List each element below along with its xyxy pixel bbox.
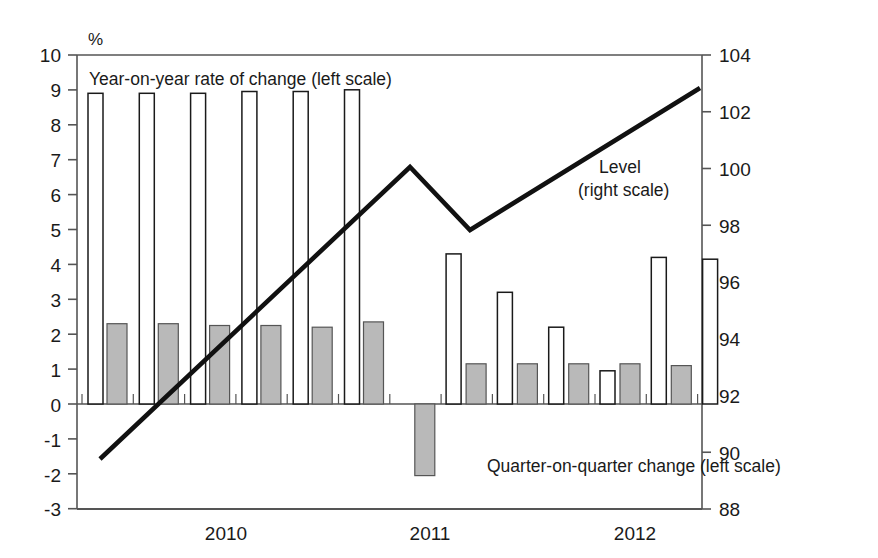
right-tick-94: 94 [719,329,741,350]
plot-background [77,55,702,509]
bar-qoq [517,364,537,404]
bar-yoy [139,93,154,404]
left-tick-4: 4 [50,255,61,276]
bar-yoy [242,92,257,405]
left-tick-7: 7 [50,150,61,171]
left-tick-10: 10 [40,45,61,66]
left-tick-0: 0 [50,395,61,416]
line-label-level-title: Level [599,157,641,177]
left-tick-neg2: -2 [44,465,61,486]
left-tick-3: 3 [50,290,61,311]
left-axis-ticks [68,55,77,509]
left-tick-8: 8 [50,115,61,136]
right-tick-102: 102 [719,102,751,123]
bar-yoy [600,371,615,404]
percent-unit-label: % [88,30,103,49]
bar-yoy [191,93,206,404]
bar-yoy [497,292,512,404]
bar-qoq [671,366,691,404]
right-tick-100: 100 [719,159,751,180]
left-tick-9: 9 [50,80,61,101]
left-tick-neg1: -1 [44,430,61,451]
left-tick-neg3: -3 [44,499,61,520]
bar-qoq [415,404,435,476]
right-tick-88: 88 [719,499,740,520]
bar-qoq [107,324,127,404]
bar-qoq [466,364,486,404]
bar-yoy [293,92,308,405]
x-tick-label-2011: 2011 [410,523,451,544]
bar-qoq [312,327,332,404]
left-tick-1: 1 [50,360,61,381]
x-tick-label-2012: 2012 [614,523,656,544]
line-label-level-scale: (right scale) [578,180,669,200]
right-tick-98: 98 [719,216,740,237]
legend-label-quarter-on-quarter: Quarter-on-quarter change (left scale) [487,456,781,476]
x-tick-label-2010: 2010 [205,523,247,544]
bar-qoq [261,326,281,405]
bar-qoq [620,364,640,404]
left-tick-2: 2 [50,325,61,346]
legend-label-year-on-year: Year-on-year rate of change (left scale) [89,69,392,89]
bar-yoy [651,257,666,404]
left-tick-6: 6 [50,185,61,206]
chart-container: 10 9 8 7 6 5 4 3 2 1 0 -1 -2 -3 % [0,0,878,558]
bar-yoy [446,254,461,404]
bar-qoq [364,322,384,404]
bar-yoy [703,259,718,404]
right-tick-96: 96 [719,272,740,293]
bar-yoy [549,327,564,404]
left-tick-5: 5 [50,220,61,241]
bar-yoy [88,93,103,404]
right-tick-92: 92 [719,386,740,407]
dual-axis-bar-line-chart: 10 9 8 7 6 5 4 3 2 1 0 -1 -2 -3 % [0,0,878,558]
right-tick-104: 104 [719,45,751,66]
bar-yoy [345,90,360,404]
bar-qoq [569,364,589,404]
